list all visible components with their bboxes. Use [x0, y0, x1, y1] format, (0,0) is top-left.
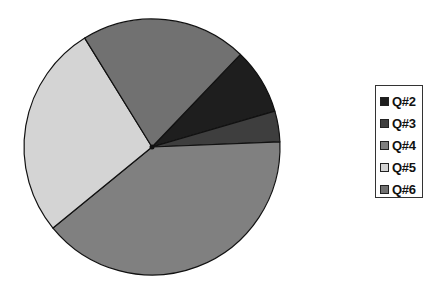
legend-label-q3: Q#3	[392, 116, 416, 131]
legend-label-q4: Q#4	[392, 138, 416, 153]
pie-chart: Q#2 Q#3 Q#4 Q#5 Q#6	[0, 0, 445, 294]
chart-legend: Q#2 Q#3 Q#4 Q#5 Q#6	[375, 85, 423, 198]
legend-item-q2: Q#2	[376, 90, 422, 112]
pie-center-dot	[150, 145, 155, 150]
legend-item-q4: Q#4	[376, 134, 422, 156]
legend-item-q6: Q#6	[376, 178, 422, 200]
legend-swatch-q3	[380, 119, 389, 128]
legend-item-q3: Q#3	[376, 112, 422, 134]
legend-label-q5: Q#5	[392, 160, 416, 175]
legend-item-q5: Q#5	[376, 156, 422, 178]
legend-swatch-q6	[380, 185, 389, 194]
legend-swatch-q4	[380, 141, 389, 150]
legend-label-q6: Q#6	[392, 182, 416, 197]
legend-label-q2: Q#2	[392, 94, 416, 109]
legend-swatch-q5	[380, 163, 389, 172]
legend-swatch-q2	[380, 97, 389, 106]
